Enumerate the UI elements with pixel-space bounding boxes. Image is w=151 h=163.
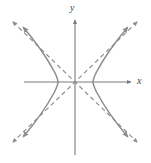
- hyperbola-figure: y x: [0, 0, 151, 163]
- y-axis-label: y: [70, 3, 74, 13]
- graph-canvas: [0, 0, 151, 163]
- x-axis-label: x: [137, 76, 141, 86]
- axis-group: [24, 20, 131, 155]
